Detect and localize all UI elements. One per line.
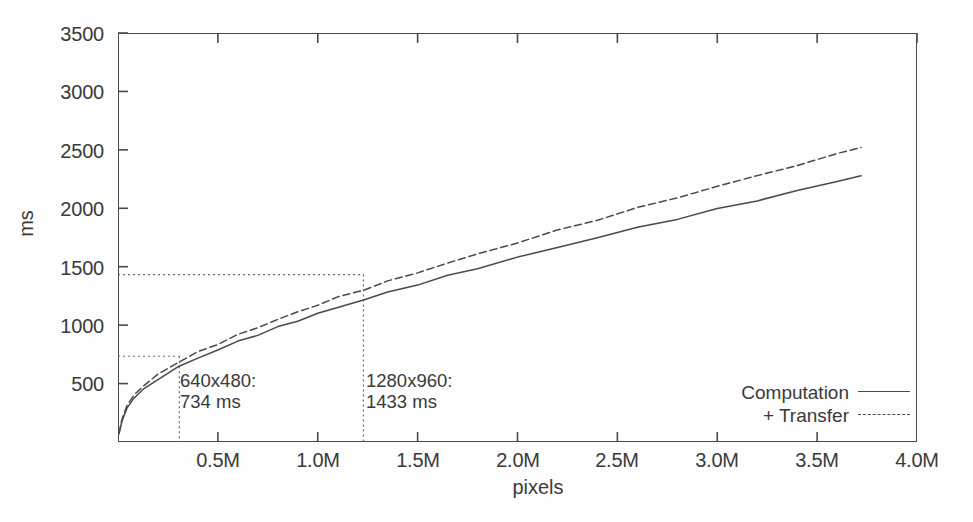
legend-label-transfer: + Transfer xyxy=(763,405,849,427)
annotation-640x480-line2: 734 ms xyxy=(180,391,256,412)
annotation-640x480-line1: 640x480: xyxy=(180,370,256,391)
annotation-1280x960: 1280x960: 1433 ms xyxy=(366,370,452,412)
legend-label-computation: Computation xyxy=(741,382,849,404)
legend: Computation + Transfer xyxy=(735,381,910,427)
x-axis-label: pixels xyxy=(478,476,598,499)
legend-swatch-solid-line xyxy=(858,391,910,394)
y-tick-label-3500: 3500 xyxy=(20,23,104,46)
y-tick-label-1500: 1500 xyxy=(20,257,104,280)
annotation-640x480: 640x480: 734 ms xyxy=(180,370,256,412)
legend-item-transfer: + Transfer xyxy=(735,404,910,427)
annotation-1280x960-line2: 1433 ms xyxy=(366,391,452,412)
x-tick-label-1-0M: 1.0M xyxy=(278,449,358,472)
y-tick-label-2500: 2500 xyxy=(20,140,104,163)
chart-page: ms 3500 3000 2500 2000 1500 1000 500 0.5… xyxy=(0,0,973,522)
x-tick-label-0-5M: 0.5M xyxy=(178,449,258,472)
x-tick-label-3-0M: 3.0M xyxy=(677,449,757,472)
y-tick-label-1000: 1000 xyxy=(20,315,104,338)
legend-item-computation: Computation xyxy=(735,381,910,404)
x-tick-label-3-5M: 3.5M xyxy=(777,449,857,472)
y-tick-label-500: 500 xyxy=(20,373,104,396)
legend-swatch-dashed-line xyxy=(858,414,910,417)
x-tick-label-2-5M: 2.5M xyxy=(577,449,657,472)
y-tick-label-3000: 3000 xyxy=(20,81,104,104)
x-tick-label-2-0M: 2.0M xyxy=(478,449,558,472)
x-tick-label-4-0M: 4.0M xyxy=(877,449,957,472)
x-tick-label-1-5M: 1.5M xyxy=(378,449,458,472)
annotation-1280x960-line1: 1280x960: xyxy=(366,370,452,391)
y-tick-label-2000: 2000 xyxy=(20,198,104,221)
